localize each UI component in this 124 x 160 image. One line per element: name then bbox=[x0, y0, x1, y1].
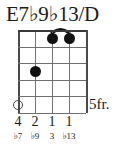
string-line-5 bbox=[86, 30, 88, 113]
finger-number-string-3: 1 bbox=[44, 114, 60, 129]
finger-number-string-1: 4 bbox=[10, 114, 26, 129]
interval-label-string-4: ♭13 bbox=[59, 130, 79, 142]
dot-string-4-fret-1 bbox=[64, 33, 75, 44]
finger-number-string-4: 1 bbox=[61, 114, 77, 129]
dot-string-2-fret-3 bbox=[30, 66, 41, 77]
dot-string-1-fret-5 bbox=[13, 100, 23, 110]
finger-number-string-2: 2 bbox=[27, 114, 43, 129]
fret-position-label: 5fr. bbox=[89, 96, 109, 112]
fret-line-0 bbox=[18, 30, 86, 32]
chord-name-title: E7♭9♭13/D bbox=[6, 2, 99, 26]
fret-line-1 bbox=[18, 47, 86, 48]
finger-number-row: 4211 bbox=[18, 114, 86, 129]
fret-line-2 bbox=[18, 63, 86, 64]
dot-string-3-fret-1 bbox=[47, 33, 58, 44]
fret-line-4 bbox=[18, 96, 86, 97]
fret-line-3 bbox=[18, 80, 86, 81]
fretboard-grid bbox=[18, 30, 86, 113]
interval-label-row: ♭7♭93♭13 bbox=[18, 130, 86, 142]
